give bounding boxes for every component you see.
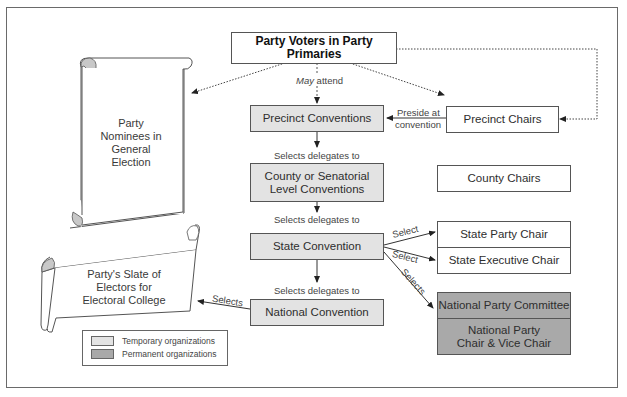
permanent-legend-text: Permanent organizations <box>122 349 217 359</box>
national-party-committee-label: National Party Committee <box>438 299 569 312</box>
precinct-conventions-box: Precinct Conventions <box>250 105 384 132</box>
state-executive-chair-box: State Executive Chair <box>437 247 571 274</box>
precinct-chairs-label: Precinct Chairs <box>464 113 542 126</box>
county-conventions-label: County or Senatorial Level Conventions <box>255 170 379 196</box>
state-party-chair-label: State Party Chair <box>460 228 548 241</box>
may-attend-label: May attend <box>296 75 343 86</box>
county-chairs-box: County Chairs <box>437 165 571 192</box>
county-chairs-label: County Chairs <box>468 172 541 185</box>
legend: Temporary organizations Permanent organi… <box>82 330 228 366</box>
precinct-chairs-box: Precinct Chairs <box>446 106 559 133</box>
state-convention-box: State Convention <box>250 233 384 260</box>
county-conventions-box: County or Senatorial Level Conventions <box>250 163 384 202</box>
national-convention-box: National Convention <box>250 299 384 326</box>
state-convention-label: State Convention <box>273 240 361 253</box>
party-voters-label: Party Voters in Party Primaries <box>232 35 396 61</box>
temporary-legend-text: Temporary organizations <box>122 336 215 346</box>
party-nominees-text: Party Nominees in General Election <box>98 117 164 169</box>
national-party-committee-box: National Party Committee <box>437 292 571 319</box>
national-party-chair-box: National Party Chair & Vice Chair <box>437 318 571 355</box>
legend-permanent: Permanent organizations <box>91 349 217 359</box>
legend-temporary: Temporary organizations <box>91 336 215 346</box>
attend-text: attend <box>314 75 343 86</box>
national-party-chair-label: National Party Chair & Vice Chair <box>454 324 554 350</box>
permanent-swatch <box>91 349 114 359</box>
precinct-conventions-label: Precinct Conventions <box>263 112 372 125</box>
electors-slate-text: Party's Slate of Electors for Electoral … <box>78 268 170 307</box>
selects-delegates-label-3: Selects delegates to <box>274 285 360 296</box>
selects-delegates-label-1: Selects delegates to <box>274 150 360 161</box>
selects-delegates-label-2: Selects delegates to <box>274 214 360 225</box>
temporary-swatch <box>91 336 114 346</box>
may-italic-text: May <box>296 75 314 86</box>
national-convention-label: National Convention <box>265 306 369 319</box>
state-party-chair-box: State Party Chair <box>437 221 571 248</box>
preside-at-label: Preside at <box>397 107 440 118</box>
convention-label: convention <box>395 119 441 130</box>
party-voters-box: Party Voters in Party Primaries <box>231 32 397 64</box>
state-executive-chair-label: State Executive Chair <box>449 254 560 267</box>
